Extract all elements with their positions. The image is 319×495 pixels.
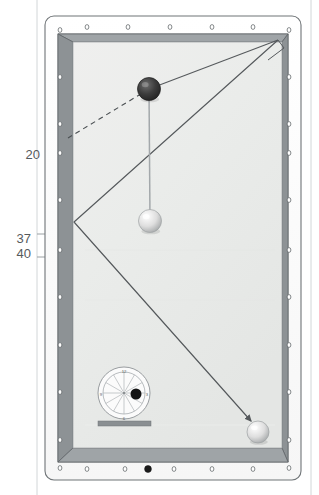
diamond-marker bbox=[287, 466, 291, 471]
diamond-marker bbox=[251, 467, 255, 472]
diamond-marker bbox=[287, 28, 291, 33]
diamond-marker bbox=[58, 438, 62, 443]
ball-object-ball bbox=[138, 78, 161, 103]
diamond-marker bbox=[58, 122, 62, 127]
target-diamond-filled bbox=[145, 466, 152, 473]
dimension-label-37: 37 bbox=[17, 231, 31, 246]
diamond-marker bbox=[210, 25, 214, 30]
rail-sight-marker-left bbox=[58, 122, 62, 127]
cue-aim-line bbox=[149, 89, 150, 221]
rail-sight-marker-right bbox=[287, 248, 291, 253]
diamond-marker bbox=[287, 151, 291, 156]
diamond-marker bbox=[126, 25, 130, 30]
dimension-label-40: 40 bbox=[17, 246, 31, 261]
diamond-marker bbox=[210, 467, 214, 472]
rail-sight-marker-left bbox=[58, 466, 62, 471]
rail-sight-marker-left bbox=[58, 198, 62, 203]
ball-body bbox=[138, 78, 161, 101]
ball-target-ball bbox=[247, 421, 269, 445]
clock-hub bbox=[122, 391, 125, 394]
rail-sight-marker-bottom bbox=[172, 467, 176, 472]
rail-sight-marker-right bbox=[287, 295, 291, 300]
rail-sight-marker-top bbox=[251, 25, 255, 30]
rail-sight-marker-left bbox=[58, 151, 62, 156]
rail-sight-marker-left bbox=[58, 343, 62, 348]
ball-highlight bbox=[143, 214, 150, 219]
ball-body bbox=[247, 421, 269, 443]
pool-table-diagram: 20 37 40 bbox=[0, 0, 319, 495]
diamond-marker bbox=[58, 75, 62, 80]
diamond-marker bbox=[58, 466, 62, 471]
clock-number: 12 bbox=[122, 369, 127, 374]
rail-sight-marker-left bbox=[58, 438, 62, 443]
rail-sight-marker-bottom bbox=[145, 466, 152, 473]
right-cushion bbox=[282, 34, 288, 462]
diamond-marker bbox=[287, 75, 291, 80]
rail-sight-marker-bottom bbox=[210, 467, 214, 472]
rail-sight-marker-bottom bbox=[85, 467, 89, 472]
rail-sight-marker-right bbox=[287, 390, 291, 395]
rail-sight-marker-right bbox=[287, 122, 291, 127]
diamond-marker bbox=[123, 467, 127, 472]
ball-highlight bbox=[142, 82, 149, 87]
diamond-marker bbox=[58, 390, 62, 395]
rail-sight-marker-right bbox=[287, 151, 291, 156]
rail-sight-marker-bottom bbox=[123, 467, 127, 472]
ball-highlight bbox=[251, 425, 258, 430]
diamond-marker bbox=[287, 248, 291, 253]
rail-sight-marker-right bbox=[287, 343, 291, 348]
rail-sight-marker-left bbox=[58, 75, 62, 80]
diamond-marker bbox=[287, 343, 291, 348]
rail-sight-marker-top bbox=[126, 25, 130, 30]
diamond-marker bbox=[168, 25, 172, 30]
rail-sight-marker-right bbox=[287, 198, 291, 203]
diagram-canvas: 20 37 40 bbox=[0, 0, 319, 495]
rail-sight-marker-left bbox=[58, 248, 62, 253]
bottom-cushion bbox=[58, 448, 288, 462]
diamond-marker bbox=[58, 28, 62, 33]
diamond-marker bbox=[58, 198, 62, 203]
rail-sight-marker-top bbox=[85, 25, 89, 30]
diamond-marker bbox=[58, 343, 62, 348]
top-cushion bbox=[58, 34, 288, 42]
diamond-marker bbox=[251, 25, 255, 30]
rail-sight-marker-top bbox=[210, 25, 214, 30]
diamond-marker bbox=[287, 295, 291, 300]
diamond-marker bbox=[58, 151, 62, 156]
rail-sight-marker-right bbox=[287, 75, 291, 80]
rail-sight-marker-left bbox=[58, 28, 62, 33]
ball-cue-ball bbox=[139, 210, 162, 235]
rail-sight-marker-left bbox=[58, 390, 62, 395]
rail-sight-marker-top bbox=[168, 25, 172, 30]
dimension-label-20: 20 bbox=[26, 147, 40, 162]
rail-sight-marker-bottom bbox=[251, 467, 255, 472]
diamond-marker bbox=[172, 467, 176, 472]
tip-contact-dot bbox=[131, 389, 142, 400]
diamond-marker bbox=[287, 198, 291, 203]
rail-sight-marker-right bbox=[287, 466, 291, 471]
diamond-marker bbox=[85, 25, 89, 30]
clock-base-bar bbox=[98, 421, 151, 426]
ball-body bbox=[139, 210, 162, 233]
diamond-marker bbox=[287, 122, 291, 127]
diamond-marker bbox=[287, 438, 291, 443]
rail-sight-marker-right bbox=[287, 28, 291, 33]
diamond-marker bbox=[85, 467, 89, 472]
diamond-marker bbox=[58, 248, 62, 253]
diamond-marker bbox=[287, 390, 291, 395]
rail-sight-marker-right bbox=[287, 438, 291, 443]
rail-sight-marker-left bbox=[58, 295, 62, 300]
diamond-marker bbox=[58, 295, 62, 300]
